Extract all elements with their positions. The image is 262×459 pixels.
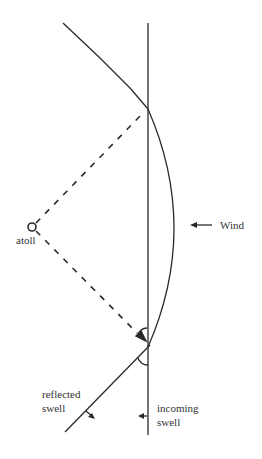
incoming-swell-arrow-icon xyxy=(138,413,144,419)
wind-label: Wind xyxy=(220,219,244,231)
wind-wave-arc xyxy=(148,109,174,347)
incoming-swell-label-2: swell xyxy=(157,416,180,428)
reflected-swell-label-1: reflected xyxy=(42,388,81,400)
atoll-ray-lower xyxy=(36,231,137,333)
refraction-reflection-diagram: Wind atoll reflected swell incoming swel… xyxy=(0,0,262,459)
reflected-swell-label-2: swell xyxy=(42,402,65,414)
wind-arrow-icon xyxy=(190,222,197,228)
atoll-marker xyxy=(28,223,36,231)
atoll-ray-upper xyxy=(36,113,143,223)
incoming-swell-label-1: incoming xyxy=(157,402,199,414)
atoll-label: atoll xyxy=(16,234,36,246)
angle-arc-lower xyxy=(138,358,148,365)
refracted-upper-line xyxy=(63,23,148,109)
